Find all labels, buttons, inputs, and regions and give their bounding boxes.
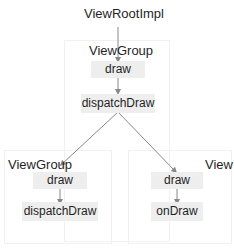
child-group-label: ViewGroup (8, 157, 72, 172)
draw-flow-diagram: ViewRootImpl ViewGroup draw dispatchDraw… (0, 0, 234, 249)
parent-draw-box: draw (91, 61, 145, 78)
child-view-draw-box: draw (151, 172, 203, 189)
child-group-dispatchdraw-box: dispatchDraw (22, 202, 98, 221)
parent-dispatchdraw-box: dispatchDraw (81, 94, 155, 113)
parent-group-label: ViewGroup (89, 43, 153, 58)
child-view-ondraw-box: onDraw (151, 202, 203, 221)
child-view-label: View (205, 157, 233, 172)
child-group-draw-box: draw (33, 172, 87, 189)
root-label: ViewRootImpl (84, 6, 164, 21)
